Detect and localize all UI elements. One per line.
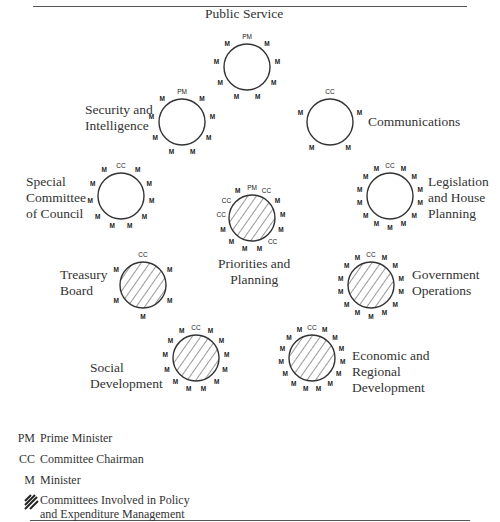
legend-text: Prime Minister bbox=[40, 431, 112, 445]
committee-label-security-intelligence: Security and Intelligence bbox=[85, 102, 153, 134]
legend-item-m: M Minister bbox=[3, 473, 81, 488]
member-m: M bbox=[336, 370, 341, 377]
member-m: M bbox=[222, 366, 227, 373]
member-m: M bbox=[90, 180, 95, 187]
member-m: M bbox=[206, 134, 211, 141]
committee-label-communications: Communications bbox=[368, 114, 460, 130]
member-m: M bbox=[392, 262, 397, 269]
committee-legislation-house-planning: CCMMMMMMMMMMMMM bbox=[357, 162, 423, 231]
member-m: M bbox=[162, 351, 167, 358]
member-cc: CC bbox=[268, 238, 278, 245]
member-m: M bbox=[219, 337, 224, 344]
committee-priorities-planning: PMCCMMMCCMMMMCCCCM bbox=[217, 184, 286, 252]
member-m: M bbox=[214, 58, 219, 65]
member-m: M bbox=[88, 197, 93, 204]
committee-security-intelligence: PMMMMMMMMM bbox=[149, 88, 215, 155]
member-cc: CC bbox=[385, 162, 395, 169]
member-m: M bbox=[411, 173, 416, 180]
legend-item-hatch: Committees Involved in Policy and Expend… bbox=[3, 493, 190, 521]
member-m: M bbox=[142, 213, 147, 220]
member-m: M bbox=[357, 199, 362, 206]
committee-treasury-board: CCMMMMM bbox=[113, 251, 172, 320]
committee-public-service: PMMMMMMMMM bbox=[214, 33, 280, 100]
member-m: M bbox=[278, 226, 283, 233]
member-m: M bbox=[382, 254, 387, 261]
member-pm: PM bbox=[242, 33, 252, 40]
member-m: M bbox=[278, 358, 283, 365]
member-m: M bbox=[201, 385, 206, 392]
member-pm: PM bbox=[247, 184, 257, 191]
member-m: M bbox=[190, 148, 195, 155]
committee-label-special-committee-of-council: Special Committee of Council bbox=[26, 174, 86, 222]
member-cc: CC bbox=[191, 324, 201, 331]
member-m: M bbox=[113, 266, 118, 273]
member-m: M bbox=[303, 385, 308, 392]
member-m: M bbox=[208, 327, 213, 334]
committee-label-treasury-board: Treasury Board bbox=[60, 267, 108, 299]
committee-label-legislation-house-planning: Legislation and House Planning bbox=[428, 174, 489, 222]
member-m: M bbox=[168, 337, 173, 344]
member-m: M bbox=[374, 165, 379, 172]
member-cc: CC bbox=[307, 324, 317, 331]
member-m: M bbox=[344, 301, 349, 308]
member-cc: CC bbox=[325, 88, 335, 95]
member-m: M bbox=[363, 212, 368, 219]
member-m: M bbox=[411, 212, 416, 219]
member-m: M bbox=[387, 224, 392, 231]
member-m: M bbox=[291, 380, 296, 387]
member-cc: CC bbox=[138, 251, 148, 258]
member-m: M bbox=[355, 254, 360, 261]
member-m: M bbox=[332, 334, 337, 341]
member-m: M bbox=[255, 93, 260, 100]
member-m: M bbox=[271, 79, 276, 86]
member-m: M bbox=[234, 93, 239, 100]
committee-communications: CCMMMM bbox=[298, 88, 362, 151]
member-m: M bbox=[338, 275, 343, 282]
member-m: M bbox=[199, 95, 204, 102]
member-m: M bbox=[146, 180, 151, 187]
legend-text: Committees Involved in Policy and Expend… bbox=[40, 493, 190, 521]
member-m: M bbox=[374, 220, 379, 227]
member-m: M bbox=[167, 266, 172, 273]
member-m: M bbox=[95, 213, 100, 220]
member-m: M bbox=[113, 297, 118, 304]
member-m: M bbox=[179, 327, 184, 334]
member-m: M bbox=[140, 313, 145, 320]
committee-circle bbox=[98, 173, 144, 219]
hatched-committee-circle bbox=[120, 262, 166, 308]
member-m: M bbox=[392, 301, 397, 308]
member-m: M bbox=[275, 58, 280, 65]
member-m: M bbox=[282, 370, 287, 377]
committee-circle bbox=[159, 99, 205, 145]
member-m: M bbox=[135, 166, 140, 173]
hatched-committee-circle bbox=[229, 195, 275, 241]
member-m: M bbox=[217, 79, 222, 86]
member-m: M bbox=[357, 109, 362, 116]
member-cc: CC bbox=[262, 187, 272, 194]
hatched-committee-circle bbox=[289, 335, 335, 381]
member-m: M bbox=[275, 197, 280, 204]
legend-key: M bbox=[3, 473, 35, 488]
committee-circle bbox=[367, 173, 413, 219]
member-m: M bbox=[210, 113, 215, 120]
member-m: M bbox=[327, 380, 332, 387]
member-m: M bbox=[322, 326, 327, 333]
committee-special-committee-of-council: CCMMMMMMMMMM bbox=[88, 162, 155, 230]
hatched-committee-circle bbox=[348, 262, 394, 308]
committee-label-public-service: Public Service bbox=[205, 6, 283, 22]
member-m: M bbox=[159, 95, 164, 102]
member-m: M bbox=[368, 313, 373, 320]
member-cc: CC bbox=[366, 251, 376, 258]
member-m: M bbox=[167, 297, 172, 304]
member-m: M bbox=[344, 262, 349, 269]
member-m: M bbox=[173, 378, 178, 385]
member-m: M bbox=[339, 345, 344, 352]
member-m: M bbox=[169, 148, 174, 155]
member-m: M bbox=[149, 197, 154, 204]
committee-label-social-development: Social Development bbox=[90, 360, 163, 392]
member-m: M bbox=[101, 166, 106, 173]
member-cc: CC bbox=[222, 197, 232, 204]
member-m: M bbox=[164, 366, 169, 373]
committee-circle bbox=[224, 44, 270, 90]
member-m: M bbox=[338, 288, 343, 295]
